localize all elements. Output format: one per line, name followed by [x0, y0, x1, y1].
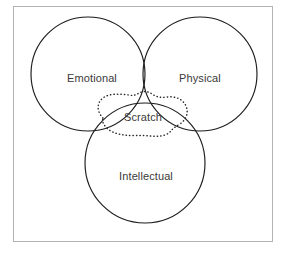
label-scratch: Scratch — [124, 111, 162, 123]
label-intellectual: Intellectual — [119, 170, 173, 182]
label-physical: Physical — [179, 72, 221, 84]
label-emotional: Emotional — [67, 72, 117, 84]
venn-diagram-figure: Emotional Physical Scratch Intellectual — [0, 0, 288, 259]
venn-canvas — [0, 0, 288, 259]
